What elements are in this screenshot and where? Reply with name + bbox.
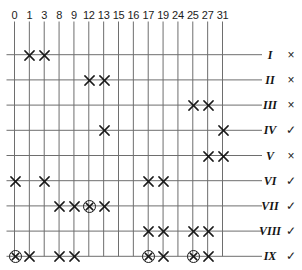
grid-lines bbox=[0, 0, 302, 270]
row-verdict-mark: ✓ bbox=[286, 225, 296, 237]
row-verdict-mark: ✓ bbox=[286, 200, 296, 212]
row-verdict-mark: × bbox=[287, 74, 294, 86]
row-label-ii: II bbox=[265, 74, 274, 86]
column-header: 1 bbox=[26, 10, 32, 21]
row-verdict-mark: ✓ bbox=[286, 250, 296, 262]
column-header: 12 bbox=[83, 10, 95, 21]
row-label-vii: VII bbox=[261, 200, 278, 212]
column-grid-figure: 0138912131516171924252731I×II×III×IV✓V×V… bbox=[0, 0, 302, 270]
column-header: 3 bbox=[41, 10, 47, 21]
row-verdict-mark: ✓ bbox=[286, 124, 296, 136]
column-header: 0 bbox=[12, 10, 18, 21]
column-header: 16 bbox=[128, 10, 140, 21]
row-label-viii: VIII bbox=[259, 225, 281, 237]
row-label-iv: IV bbox=[264, 124, 277, 136]
column-header: 24 bbox=[172, 10, 184, 21]
row-label-vi: VI bbox=[264, 175, 277, 187]
row-label-v: V bbox=[266, 150, 274, 162]
column-header: 15 bbox=[113, 10, 125, 21]
column-header: 17 bbox=[142, 10, 154, 21]
row-verdict-mark: ✓ bbox=[286, 175, 296, 187]
column-header: 25 bbox=[187, 10, 199, 21]
row-verdict-mark: × bbox=[287, 150, 294, 162]
column-header: 13 bbox=[98, 10, 110, 21]
row-label-iii: III bbox=[263, 99, 277, 111]
row-verdict-mark: × bbox=[287, 49, 294, 61]
row-verdict-mark: × bbox=[287, 99, 294, 111]
column-header: 19 bbox=[157, 10, 169, 21]
row-label-i: I bbox=[268, 49, 273, 61]
column-header: 31 bbox=[217, 10, 229, 21]
row-label-ix: IX bbox=[264, 250, 277, 262]
column-header: 9 bbox=[71, 10, 77, 21]
column-header: 27 bbox=[202, 10, 214, 21]
column-header: 8 bbox=[56, 10, 62, 21]
